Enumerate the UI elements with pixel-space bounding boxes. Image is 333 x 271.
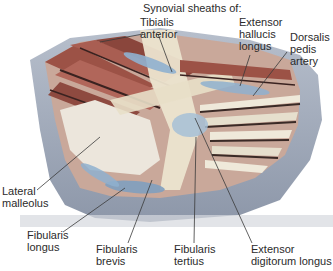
ankle-illustration: Synovial sheaths of: Tibialis anterior E…	[0, 0, 333, 271]
label-fibularis-tertius: Fibularis tertius	[174, 243, 216, 267]
figure-title: Synovial sheaths of:	[143, 2, 241, 14]
label-extensor-hallucis-longus: Extensor hallucis longus	[239, 16, 282, 52]
label-extensor-digitorum-longus: Extensor digitorum longus	[251, 243, 332, 267]
label-fibularis-longus: Fibularis longus	[27, 229, 69, 253]
label-tibialis-anterior: Tibialis anterior	[140, 16, 177, 40]
label-dorsalis-pedis-artery: Dorsalis pedis artery	[290, 31, 330, 67]
label-lateral-malleolus: Lateral malleolus	[2, 185, 48, 209]
label-fibularis-brevis: Fibularis brevis	[96, 243, 138, 267]
